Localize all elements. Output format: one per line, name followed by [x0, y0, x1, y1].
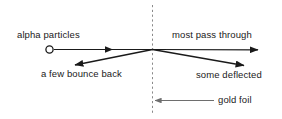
backscattered-beam-arrow: [75, 50, 153, 66]
label-some-deflected: some deflected: [196, 69, 262, 80]
label-gold-foil: gold foil: [218, 94, 252, 105]
deflected-beam-arrow: [153, 50, 245, 66]
rutherford-gold-foil-diagram: alpha particles most pass through a few …: [0, 0, 282, 119]
label-a-few-bounce-back: a few bounce back: [41, 68, 122, 79]
label-alpha-particles: alpha particles: [17, 29, 80, 40]
alpha-source-circle: [46, 46, 53, 53]
label-most-pass-through: most pass through: [172, 29, 252, 40]
